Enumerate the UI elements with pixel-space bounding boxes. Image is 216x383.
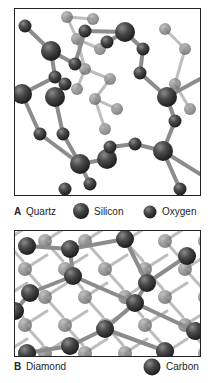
- back-carbon-atom: [18, 262, 32, 276]
- quartz-structure-illustration: [14, 8, 201, 196]
- panel-title-diamond: Diamond: [26, 361, 66, 372]
- carbon-atom: [18, 344, 36, 356]
- oxygen-atom: [101, 36, 114, 49]
- back-atom: [89, 93, 101, 105]
- carbon-atom: [178, 247, 196, 265]
- oxygen-atom: [59, 78, 72, 91]
- legend-label-oxygen: Oxygen: [162, 206, 196, 217]
- silicon-atom: [41, 41, 61, 61]
- oxygen-atom: [174, 183, 187, 196]
- carbon-atom: [126, 294, 144, 312]
- carbon-atom: [96, 320, 114, 338]
- oxygen-atom: [57, 128, 70, 141]
- back-carbon-atom: [158, 234, 172, 248]
- panel-letter-a: A: [14, 206, 21, 217]
- oxygen-atom: [129, 138, 142, 151]
- back-carbon-atom: [98, 262, 112, 276]
- back-carbon-atom: [38, 290, 52, 304]
- back-carbon-atom: [18, 318, 32, 332]
- carbon-atom: [156, 342, 174, 356]
- carbon-atom: [138, 274, 156, 292]
- back-carbon-atom: [138, 318, 152, 332]
- silicon-atom: [157, 87, 177, 107]
- oxygen-atom: [69, 58, 82, 71]
- back-carbon-atom: [118, 346, 132, 356]
- diamond-structure-illustration: [14, 230, 201, 357]
- back-carbon-atom: [78, 346, 92, 356]
- silicon-atom: [115, 22, 135, 42]
- carbon-atom-icon: [142, 357, 162, 377]
- back-carbon-atom: [158, 290, 172, 304]
- oxygen-atom: [134, 67, 147, 80]
- legend-label-silicon: Silicon: [94, 206, 123, 217]
- oxygen-atom: [104, 141, 117, 154]
- back-atom: [184, 103, 196, 115]
- back-atom: [61, 11, 73, 23]
- oxygen-atom: [79, 25, 92, 38]
- panel-letter-b: B: [14, 361, 21, 372]
- carbon-atom: [116, 231, 134, 248]
- oxygen-atom: [137, 43, 150, 56]
- oxygen-atom-icon: [142, 204, 158, 220]
- quartz-lattice-svg: [15, 9, 200, 195]
- back-carbon-atom: [78, 290, 92, 304]
- carbon-atom: [61, 240, 79, 258]
- oxygen-atom: [34, 128, 47, 141]
- silicon-atom: [153, 141, 173, 161]
- diamond-lattice-svg: [15, 231, 200, 356]
- oxygen-atom: [19, 20, 32, 33]
- silicon-atom: [15, 84, 32, 104]
- carbon-atom: [61, 337, 79, 355]
- silicon-atom-icon: [72, 202, 90, 220]
- oxygen-atom: [59, 183, 72, 196]
- legend-label-carbon: Carbon: [166, 361, 199, 372]
- panel-title-quartz: Quartz: [26, 206, 56, 217]
- carbon-atom: [18, 237, 36, 255]
- oxygen-atom: [84, 178, 97, 191]
- back-carbon-atom: [58, 318, 72, 332]
- silicon-atom: [45, 87, 65, 107]
- back-atom: [111, 103, 123, 115]
- back-atom: [179, 43, 191, 55]
- back-carbon-atom: [198, 290, 200, 304]
- oxygen-atom: [169, 115, 182, 128]
- back-carbon-atom: [198, 346, 200, 356]
- silicon-atom: [70, 154, 90, 174]
- back-carbon-atom: [198, 234, 200, 248]
- back-atom: [104, 73, 116, 85]
- quartz-legend: A Quartz Silicon Oxygen: [14, 202, 204, 222]
- back-atom: [87, 13, 99, 25]
- back-atom: [71, 83, 83, 95]
- diamond-legend: B Diamond Carbon: [14, 357, 204, 377]
- carbon-atom: [64, 267, 82, 285]
- back-atom: [159, 23, 171, 35]
- carbon-atom: [21, 284, 39, 302]
- back-atom: [99, 123, 111, 135]
